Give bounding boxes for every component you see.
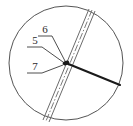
label-7-text: 7 [32,60,38,72]
reference-label-6: 6 [38,23,65,61]
cross-section-drawing: 6 5 7 [0,0,133,126]
label-6-text: 6 [42,23,48,35]
label-6-leader-line [52,36,65,61]
label-5-leader-line [42,47,63,62]
label-5-text: 5 [32,34,38,46]
figure-container: 6 5 7 [0,0,133,126]
label-7-leader-line [42,65,63,73]
reference-label-5: 5 [27,34,63,62]
reference-label-7: 7 [27,60,63,73]
radial-line [66,63,120,85]
band-centerline [46,10,92,121]
